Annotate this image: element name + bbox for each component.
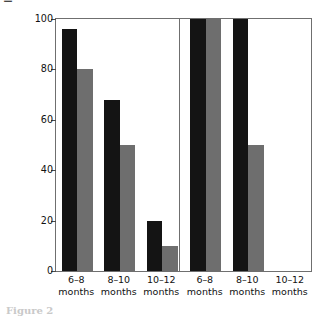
y-tick-label: 20 [27,214,53,228]
x-tick-label-1: 8–10months [98,274,141,299]
x-tick-label-2: 10–12months [140,274,183,299]
figure-caption: Figure 2 [6,305,76,316]
bar-right-panel-series-grey-1 [248,145,264,271]
bar-left-panel-series-black-2 [147,221,163,271]
plot-frame: 0 20 40 60 80 100 [55,18,312,272]
x-tick-label-unit: months [55,286,98,298]
y-tick-label: 40 [27,163,53,177]
x-tick-label-range: 10–12 [140,274,183,286]
x-tick-label-4: 8–10months [226,274,269,299]
bar-right-panel-series-black-0 [190,19,206,271]
x-tick-label-0: 6–8months [55,274,98,299]
x-tick-label-range: 6–8 [55,274,98,286]
panel-divider [179,19,180,271]
y-tick-label: 100 [27,12,53,26]
bar-left-panel-series-grey-1 [120,145,136,271]
bars-layer [56,19,311,271]
bar-left-panel-series-grey-0 [77,69,93,271]
y-tick-label: 0 [27,264,53,278]
x-tick-label-range: 6–8 [184,274,227,286]
x-tick-label-range: 8–10 [226,274,269,286]
y-axis-title: Infants able to discriminate (%) [0,0,16,46]
bar-left-panel-series-grey-2 [162,246,178,271]
x-tick-label-range: 10–12 [269,274,312,286]
bar-left-panel-series-black-1 [104,100,120,271]
x-tick-label-3: 6–8months [184,274,227,299]
y-tick-label: 60 [27,113,53,127]
x-tick-label-unit: months [140,286,183,298]
y-tick-label: 80 [27,62,53,76]
bar-right-panel-series-black-1 [233,19,249,271]
bar-right-panel-series-grey-0 [206,19,222,271]
x-tick-label-unit: months [226,286,269,298]
x-axis-labels: 6–8months8–10months10–12months6–8months8… [55,274,312,308]
x-tick-label-unit: months [98,286,141,298]
x-tick-label-unit: months [184,286,227,298]
x-tick-label-range: 8–10 [98,274,141,286]
x-tick-label-5: 10–12months [269,274,312,299]
bar-left-panel-series-black-0 [62,29,78,271]
figure-container: Infants able to discriminate (%) 0 20 40… [0,0,326,316]
x-tick-label-unit: months [269,286,312,298]
